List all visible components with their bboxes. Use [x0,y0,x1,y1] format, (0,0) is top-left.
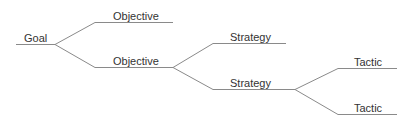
tactic-1-label: Tactic [354,56,382,68]
objective-1-label: Objective [113,10,159,22]
strategy-1-connector [173,44,286,68]
tree-connectors [0,0,413,124]
objective-1-connector [55,23,173,45]
tactic-2-label: Tactic [354,102,382,114]
strategy-2-label: Strategy [230,77,271,89]
goal-label: Goal [24,32,47,44]
goal-tree-diagram: Goal Objective Objective Strategy Strate… [0,0,413,124]
tactic-1-connector [295,69,397,90]
strategy-1-label: Strategy [230,31,271,43]
objective-2-label: Objective [113,55,159,67]
